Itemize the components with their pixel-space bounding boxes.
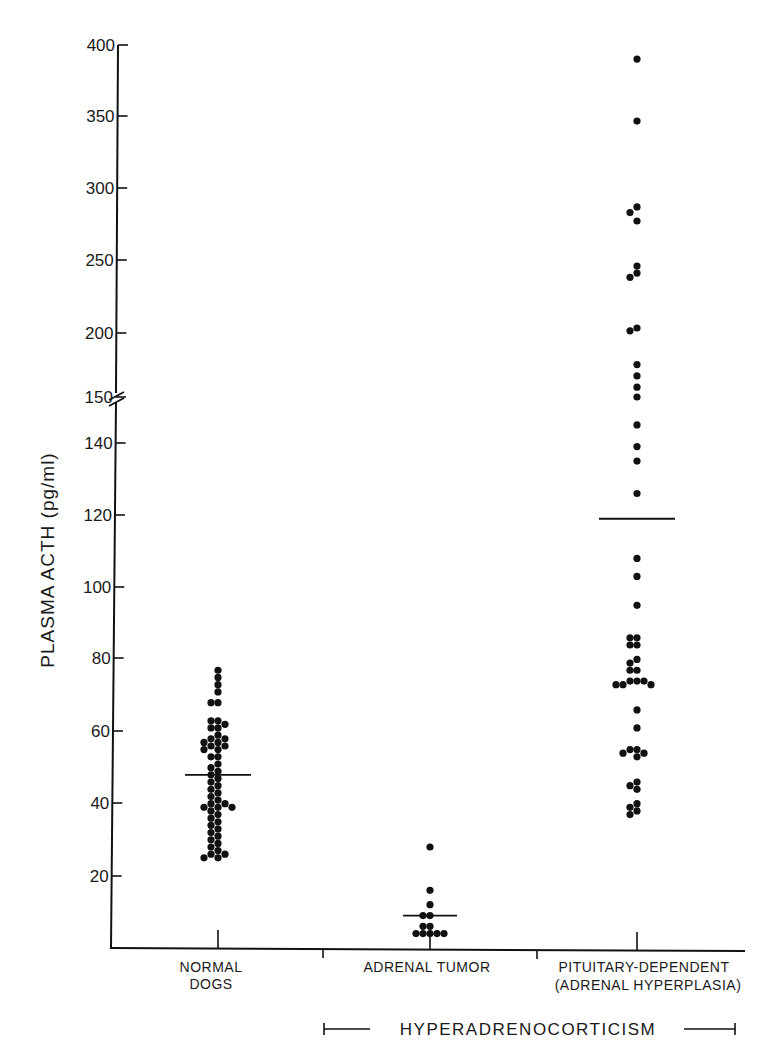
- data-point: [633, 457, 640, 464]
- data-point: [412, 930, 419, 937]
- y-tick-label: 250: [85, 251, 113, 270]
- y-axis-title: PLASMA ACTH (pg/ml): [37, 452, 58, 667]
- y-tick-label: 100: [83, 578, 111, 597]
- data-point: [619, 750, 626, 757]
- data-point: [207, 742, 214, 749]
- data-point: [214, 760, 221, 767]
- data-point: [214, 681, 221, 688]
- data-point: [633, 55, 640, 62]
- data-point: [207, 786, 214, 793]
- data-point: [626, 641, 633, 648]
- data-point: [633, 117, 640, 124]
- data-point: [214, 667, 221, 674]
- data-point: [214, 797, 221, 804]
- data-point: [633, 786, 640, 793]
- data-point: [214, 688, 221, 695]
- data-point: [207, 778, 214, 785]
- data-point: [207, 699, 214, 706]
- data-point: [214, 753, 221, 760]
- data-point: [214, 840, 221, 847]
- data-point: [633, 490, 640, 497]
- data-point: [214, 825, 221, 832]
- y-tick-label: 120: [84, 506, 112, 525]
- data-point: [207, 764, 214, 771]
- data-point: [626, 209, 633, 216]
- data-point: [200, 854, 207, 861]
- data-point: [626, 746, 633, 753]
- data-point: [426, 901, 433, 908]
- data-point: [426, 923, 433, 930]
- data-point: [214, 789, 221, 796]
- y-axis-upper: [116, 45, 118, 393]
- y-axis-lower: [111, 402, 116, 948]
- data-point: [207, 851, 214, 858]
- y-tick-label: 150: [85, 388, 113, 407]
- x-axis: [110, 948, 745, 951]
- data-point: [221, 800, 228, 807]
- data-point: [426, 930, 433, 937]
- data-point: [214, 746, 221, 753]
- data-point: [633, 269, 640, 276]
- data-point: [207, 843, 214, 850]
- data-point: [633, 753, 640, 760]
- data-point: [633, 573, 640, 580]
- data-point: [200, 804, 207, 811]
- data-point: [214, 833, 221, 840]
- data-point: [633, 393, 640, 400]
- data-point: [647, 681, 654, 688]
- data-point: [633, 807, 640, 814]
- data-point: [419, 930, 426, 937]
- data-point: [440, 930, 447, 937]
- data-point: [633, 778, 640, 785]
- data-point: [633, 602, 640, 609]
- data-point: [626, 659, 633, 666]
- data-point: [640, 750, 647, 757]
- data-point: [633, 641, 640, 648]
- data-point: [633, 217, 640, 224]
- data-point: [207, 836, 214, 843]
- y-tick-label: 200: [85, 324, 113, 343]
- data-point: [207, 753, 214, 760]
- data-points: [200, 55, 654, 937]
- data-point: [221, 851, 228, 858]
- data-point: [214, 847, 221, 854]
- data-point: [633, 361, 640, 368]
- data-point: [214, 739, 221, 746]
- group-bracket-label: HYPERADRENOCORTICISM: [400, 1020, 656, 1039]
- data-point: [640, 677, 647, 684]
- data-point: [612, 681, 619, 688]
- data-point: [633, 262, 640, 269]
- data-point: [214, 775, 221, 782]
- data-point: [214, 811, 221, 818]
- data-point: [221, 742, 228, 749]
- data-point: [207, 829, 214, 836]
- data-point: [626, 677, 633, 684]
- category-label-adrenal: ADRENAL TUMOR: [363, 959, 490, 975]
- data-point: [633, 656, 640, 663]
- data-point: [626, 782, 633, 789]
- data-point: [626, 667, 633, 674]
- data-point: [633, 324, 640, 331]
- data-point: [619, 681, 626, 688]
- data-point: [221, 735, 228, 742]
- data-point: [207, 800, 214, 807]
- data-point: [214, 818, 221, 825]
- data-point: [207, 717, 214, 724]
- data-point: [633, 421, 640, 428]
- data-point: [214, 782, 221, 789]
- data-point: [214, 717, 221, 724]
- data-point: [433, 930, 440, 937]
- data-point: [228, 804, 235, 811]
- data-point: [626, 327, 633, 334]
- y-tick-label: 300: [86, 179, 114, 198]
- data-point: [633, 677, 640, 684]
- data-point: [633, 706, 640, 713]
- y-tick-label: 60: [91, 722, 110, 741]
- dot-plot-chart: PLASMA ACTH (pg/ml) 40035030025020015014…: [0, 0, 781, 1046]
- data-point: [426, 887, 433, 894]
- data-point: [207, 807, 214, 814]
- category-label-pituitary: PITUITARY-DEPENDENT: [558, 959, 729, 975]
- data-point: [207, 822, 214, 829]
- data-point: [633, 634, 640, 641]
- y-tick-label: 20: [90, 867, 109, 886]
